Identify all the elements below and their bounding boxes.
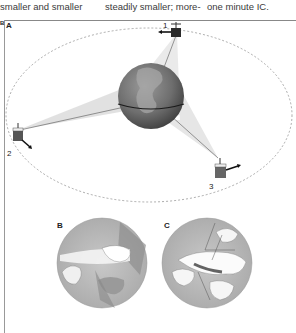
- panel-b-label: B: [57, 221, 63, 230]
- globe-b: [57, 218, 147, 308]
- panel-c-label: C: [164, 221, 170, 230]
- coverage-beam-2: [18, 88, 135, 130]
- satellite-3: [215, 158, 241, 178]
- globe-c: [162, 218, 252, 308]
- satellite-orbit-diagram: [0, 0, 296, 333]
- satellite-1: [158, 22, 181, 37]
- satellite-3-number: 3: [209, 182, 213, 191]
- satellite-1-number: 1: [163, 21, 167, 30]
- satellite-2-number: 2: [7, 149, 11, 158]
